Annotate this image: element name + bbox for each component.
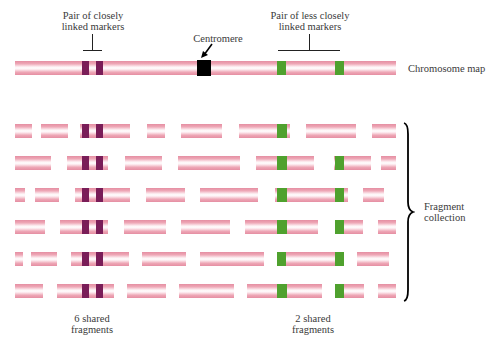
fragment bbox=[15, 252, 23, 266]
centromere-marker bbox=[197, 60, 211, 76]
far-marker bbox=[277, 61, 286, 75]
fragment bbox=[147, 124, 165, 138]
close-marker bbox=[96, 252, 103, 266]
six-shared-label: 6 shared fragments bbox=[62, 313, 122, 335]
far-marker bbox=[277, 124, 287, 138]
less-close-pair-label-line1: Pair of less closely bbox=[258, 10, 362, 21]
far-marker bbox=[335, 284, 344, 298]
close-marker bbox=[96, 220, 103, 234]
fragment bbox=[15, 220, 45, 234]
far-marker bbox=[277, 188, 287, 202]
far-marker bbox=[335, 61, 344, 75]
close-marker bbox=[96, 61, 103, 75]
six-shared-label-line2: fragments bbox=[62, 324, 122, 335]
close-marker bbox=[82, 61, 89, 75]
close-pair-label-line1: Pair of closely bbox=[52, 10, 134, 21]
far-marker bbox=[335, 252, 344, 266]
far-marker bbox=[335, 188, 344, 202]
fragment bbox=[124, 220, 166, 234]
fragment bbox=[181, 124, 222, 138]
fragment bbox=[178, 156, 240, 170]
fragment bbox=[15, 284, 43, 298]
close-pair-label: Pair of closely linked markers bbox=[52, 10, 134, 32]
fragment bbox=[125, 156, 162, 170]
centromere-label: Centromere bbox=[185, 33, 251, 44]
close-pair-label-line2: linked markers bbox=[52, 21, 134, 32]
fragment bbox=[306, 124, 356, 138]
chromosome-map-label: Chromosome map bbox=[408, 63, 485, 74]
close-marker bbox=[96, 284, 103, 298]
fragment bbox=[277, 252, 343, 266]
close-pair-bracket bbox=[83, 50, 102, 51]
fragment-collection-label-line1: Fragment bbox=[424, 201, 465, 212]
centromere-arrow-icon bbox=[200, 43, 214, 59]
close-marker bbox=[82, 156, 89, 170]
close-marker bbox=[82, 284, 89, 298]
fragment-collection-label-line2: collection bbox=[424, 212, 465, 223]
fragment bbox=[181, 220, 230, 234]
two-shared-label-line2: fragments bbox=[283, 324, 343, 335]
fragment-collection-label: Fragment collection bbox=[424, 201, 465, 223]
close-marker bbox=[96, 124, 103, 138]
fragment bbox=[381, 156, 396, 170]
fragment bbox=[142, 252, 186, 266]
far-marker bbox=[277, 252, 286, 266]
less-close-pair-bracket bbox=[278, 50, 340, 51]
fragment bbox=[41, 124, 68, 138]
less-close-pair-stem bbox=[309, 34, 310, 50]
fragment bbox=[15, 156, 51, 170]
close-marker bbox=[82, 220, 89, 234]
close-marker bbox=[82, 124, 89, 138]
fragment bbox=[363, 188, 384, 202]
two-shared-label: 2 shared fragments bbox=[283, 313, 343, 335]
fragment bbox=[372, 124, 396, 138]
far-marker bbox=[335, 156, 344, 170]
fragment bbox=[15, 124, 32, 138]
close-marker bbox=[82, 252, 89, 266]
fragment bbox=[31, 252, 57, 266]
fragment bbox=[15, 188, 25, 202]
fragment bbox=[378, 284, 396, 298]
far-marker bbox=[277, 156, 287, 170]
two-shared-label-line1: 2 shared bbox=[283, 313, 343, 324]
far-marker bbox=[277, 284, 287, 298]
fragment bbox=[179, 284, 234, 298]
close-pair-stem bbox=[92, 34, 93, 50]
less-close-pair-label-line2: linked markers bbox=[258, 21, 362, 32]
six-shared-label-line1: 6 shared bbox=[62, 313, 122, 324]
fragment bbox=[378, 220, 396, 234]
fragment bbox=[200, 188, 258, 202]
fragment bbox=[357, 252, 389, 266]
far-marker bbox=[277, 220, 287, 234]
fragment bbox=[127, 284, 166, 298]
less-close-pair-label: Pair of less closely linked markers bbox=[258, 10, 362, 32]
fragment-collection-brace bbox=[403, 122, 415, 302]
close-marker bbox=[96, 188, 103, 202]
fragment bbox=[200, 252, 264, 266]
far-marker bbox=[335, 220, 344, 234]
close-marker bbox=[96, 156, 103, 170]
fragment bbox=[35, 188, 59, 202]
fragment bbox=[146, 188, 185, 202]
close-marker bbox=[82, 188, 89, 202]
